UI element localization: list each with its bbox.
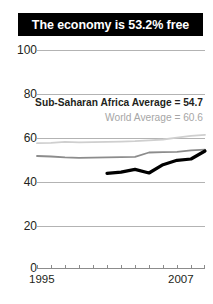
chart-legend: Sub-Saharan Africa Average = 54.7 World … <box>35 97 203 125</box>
series-line-world-average <box>37 135 205 143</box>
series-line-country <box>107 151 205 173</box>
x-tick-start-year: 1995 <box>29 274 55 286</box>
plot-area: 100 80 60 40 20 0 1995 2007 Sub-Saharan … <box>0 0 213 304</box>
x-tick-end-year: 2007 <box>168 274 194 286</box>
y-tick-80: 80 <box>0 88 37 100</box>
economy-freedom-chart-card: The economy is 53.2% free <box>0 0 213 304</box>
y-tick-40: 40 <box>0 176 37 188</box>
series-line-region-average <box>37 150 205 158</box>
gridlines <box>37 51 205 227</box>
y-tick-60: 60 <box>0 132 37 144</box>
legend-region-average: Sub-Saharan Africa Average = 54.7 <box>35 97 203 110</box>
legend-world-average: World Average = 60.6 <box>35 112 203 125</box>
y-tick-100: 100 <box>0 44 37 56</box>
x-axis-ticks <box>38 265 205 269</box>
y-tick-20: 20 <box>0 220 37 232</box>
